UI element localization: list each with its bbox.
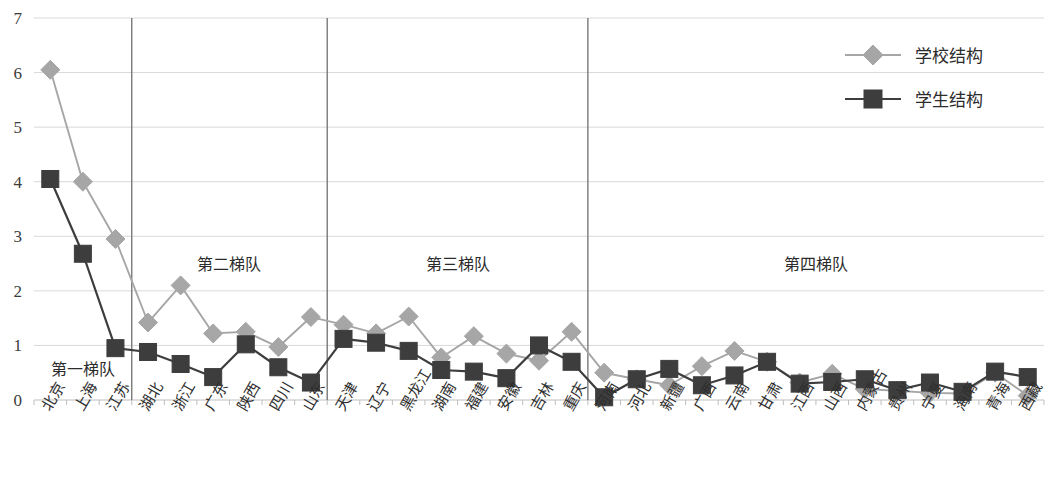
y-axis-tick-label: 7 [14, 9, 23, 28]
y-axis-tick-label: 2 [14, 282, 23, 301]
line-chart: 01234567 第一梯队第二梯队第三梯队第四梯队 北京上海江苏湖北浙江广东陕西… [0, 0, 1049, 483]
y-axis-tick-label: 1 [14, 336, 23, 355]
data-point-marker [433, 361, 450, 378]
data-point-marker [987, 363, 1004, 380]
data-point-marker [172, 355, 189, 372]
y-axis-tick-label: 0 [14, 391, 23, 410]
data-point-marker [368, 334, 385, 351]
legend-item-label: 学校结构 [915, 47, 983, 66]
data-point-marker [107, 340, 124, 357]
legend-item-label: 学生结构 [915, 91, 983, 110]
data-point-marker [759, 353, 776, 370]
data-point-marker [42, 170, 59, 187]
tier-annotation-label: 第四梯队 [784, 256, 848, 273]
y-axis-tick-label: 4 [14, 173, 23, 192]
data-point-marker [74, 245, 91, 262]
data-point-marker [531, 337, 548, 354]
data-point-marker [400, 342, 417, 359]
legend-marker-square-icon [864, 90, 882, 108]
tier-annotation-label: 第一梯队 [51, 361, 115, 378]
data-point-marker [140, 343, 157, 360]
tier-annotation-label: 第三梯队 [426, 256, 490, 273]
data-point-marker [237, 336, 254, 353]
data-point-marker [270, 359, 287, 376]
chart-container: 01234567 第一梯队第二梯队第三梯队第四梯队 北京上海江苏湖北浙江广东陕西… [0, 0, 1049, 483]
y-axis-tick-label: 5 [14, 118, 23, 137]
data-point-marker [661, 360, 678, 377]
tier-annotation-label: 第二梯队 [197, 256, 261, 273]
data-point-marker [465, 363, 482, 380]
y-axis-tick-label: 3 [14, 227, 23, 246]
data-point-marker [335, 330, 352, 347]
y-axis-tick-label: 6 [14, 64, 23, 83]
data-point-marker [563, 353, 580, 370]
